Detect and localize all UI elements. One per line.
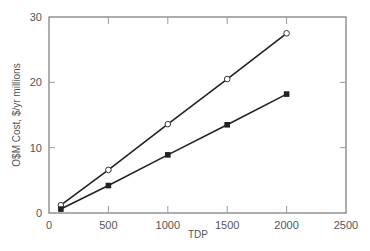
axes [49,17,346,213]
series-line [61,94,287,209]
x-axis-label: TDP [188,229,208,240]
x-tick-label: 0 [46,219,52,231]
chart: 050010001500200025000102030 TDP O$M Cost… [0,0,370,251]
plot-frame [49,17,346,213]
x-tick-label: 1000 [156,219,180,231]
ticks: 050010001500200025000102030 [30,11,358,231]
y-tick-label: 20 [30,76,42,88]
data-point [106,183,112,189]
x-tick-label: 2000 [274,219,298,231]
data-point [224,122,230,128]
y-tick-label: 30 [30,11,42,23]
y-tick-label: 0 [36,207,42,219]
x-tick-label: 2500 [334,219,358,231]
data-point [165,121,171,127]
series [58,31,289,212]
data-point [106,167,112,173]
series-1 [58,31,289,208]
data-point [165,152,171,158]
data-point [224,76,230,82]
series-line [61,33,287,205]
x-tick-label: 1500 [215,219,239,231]
y-axis-label: O$M Cost, $/yr millions [11,63,22,166]
x-tick-label: 500 [99,219,117,231]
data-point [284,31,290,37]
y-tick-label: 10 [30,142,42,154]
series-2 [58,91,289,212]
data-point [58,206,64,212]
data-point [284,91,290,97]
